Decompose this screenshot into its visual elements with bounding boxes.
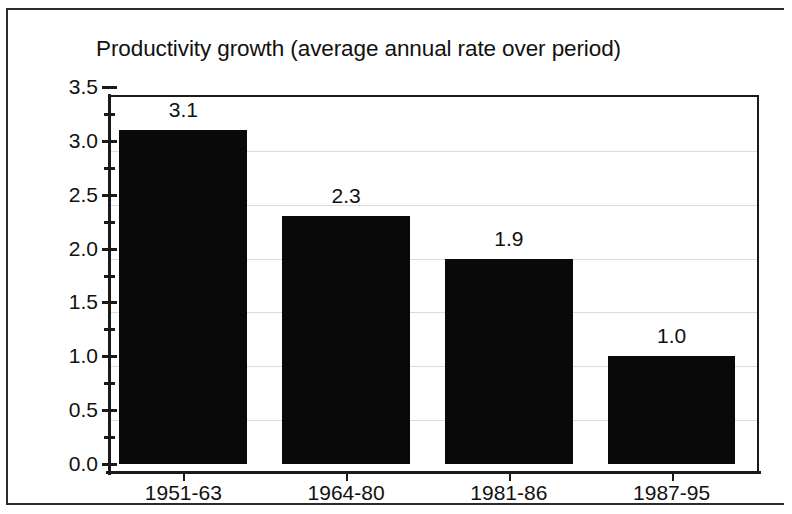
y-axis-tick [102,301,117,304]
y-axis-tick [102,248,117,251]
bar [119,130,247,464]
bar [608,356,736,464]
y-axis-tick-label: 1.5 [38,290,98,314]
y-axis-minor-tick [104,328,115,331]
x-axis-tick-label: 1987-95 [633,481,710,505]
bar [282,216,410,464]
y-axis-tick-label: 2.0 [38,237,98,261]
x-axis-tick [672,472,674,481]
y-axis-tick-label: 0.5 [38,398,98,422]
figure-frame: Productivity growth (average annual rate… [6,8,784,505]
y-axis-tick-labels: 0.00.51.01.52.02.53.03.5 [24,10,98,505]
y-axis-minor-tick [104,382,115,385]
bar [445,259,573,464]
x-axis-tick [183,472,185,481]
bar-value-label: 3.1 [119,98,247,122]
y-axis-tick-label: 0.0 [38,452,98,476]
y-axis-tick-label: 1.0 [38,344,98,368]
chart-title: Productivity growth (average annual rate… [96,34,716,64]
x-axis-tick [346,472,348,481]
x-axis-tick-label: 1964-80 [308,481,385,505]
y-axis-minor-tick [104,167,115,170]
y-axis-tick [102,409,117,412]
y-axis-minor-tick [104,221,115,224]
y-axis-tick-label: 3.0 [38,129,98,153]
x-axis-tick [509,472,511,481]
x-axis-tick-label: 1951-63 [145,481,222,505]
y-axis-tick [102,355,117,358]
y-axis-tick [102,86,117,89]
y-axis-line [108,94,111,475]
y-axis-minor-tick [104,436,115,439]
x-axis-line [106,471,761,474]
y-axis-minor-tick [104,275,115,278]
y-axis-tick [102,463,117,466]
x-axis-tick-label: 1981-86 [470,481,547,505]
y-axis-tick [102,140,117,143]
y-axis-tick [102,194,117,197]
bar-value-label: 2.3 [282,184,410,208]
y-axis-minor-tick [104,113,115,116]
bar-value-label: 1.9 [445,227,573,251]
y-axis-tick-label: 3.5 [38,75,98,99]
bar-value-label: 1.0 [608,324,736,348]
y-axis-tick-label: 2.5 [38,183,98,207]
